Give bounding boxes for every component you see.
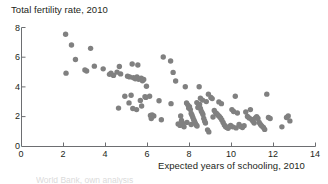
scatter-point [117,64,122,69]
scatter-point [178,113,183,118]
scatter-point [279,124,284,129]
scatter-point [139,103,144,108]
scatter-point [262,127,267,132]
scatter-point [128,92,133,97]
scatter-point [156,98,161,103]
scatter-point [168,101,173,106]
scatter-point [235,110,240,115]
scatter-point [129,61,134,66]
scatter-point [118,71,123,76]
scatter-point [196,84,201,89]
scatter-point [168,58,173,63]
scatter-point [84,68,89,73]
scatter-point [233,94,238,99]
scatter-point [141,77,146,82]
scatter-point [230,124,235,129]
scatter-point [264,91,269,96]
scatter-point [173,78,178,83]
scatter-points-layer [63,31,293,134]
scatter-point [151,113,156,118]
scatter-point [286,113,291,118]
y-tick-marks [22,28,26,117]
x-tick-marks [64,143,316,147]
scatter-point [159,117,164,122]
footer-cut-text: World Bank, own analysis [36,177,133,184]
scatter-point [210,114,215,119]
scatter-point [92,63,97,68]
scatter-point [135,62,140,67]
scatter-point [100,66,105,71]
scatter-point [251,120,256,125]
scatter-point [69,42,74,47]
scatter-point [194,123,199,128]
scatter-point [248,107,253,112]
scatter-point [138,98,143,103]
fertility-schooling-scatter-figure: Total fertility rate, 2010 8 6 4 2 0 0 2… [0,0,328,184]
scatter-point [147,94,152,99]
footer-cut-text-strip: World Bank, own analysis [0,177,328,184]
scatter-point [63,70,68,75]
scatter-point [203,120,208,125]
scatter-point [144,84,149,89]
scatter-point [194,100,199,105]
scatter-point [73,57,78,62]
scatter-point [188,122,193,127]
scatter-point [170,70,175,75]
scatter-point [267,116,272,121]
scatter-point [134,107,139,112]
plot-canvas [0,0,328,184]
scatter-point [183,84,188,89]
scatter-point [181,124,186,129]
scatter-point [126,100,131,105]
scatter-point [287,118,292,123]
scatter-point [219,101,224,106]
scatter-point [209,96,214,101]
scatter-point [122,94,127,99]
scatter-point [161,54,166,59]
scatter-point [88,46,93,51]
scatter-point [200,97,205,102]
scatter-point [63,31,68,36]
scatter-point [241,123,246,128]
scatter-point [116,105,121,110]
scatter-point [206,129,211,134]
